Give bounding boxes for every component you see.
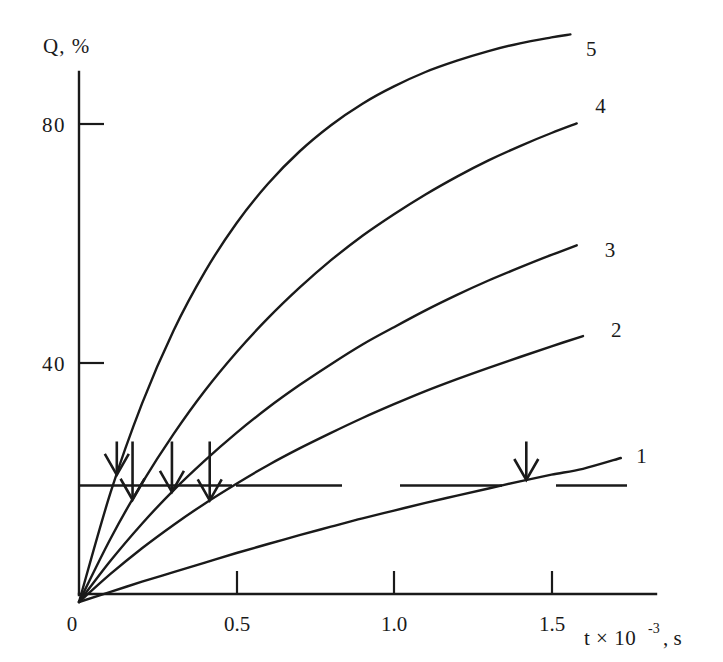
curves-group (79, 34, 621, 602)
x-origin-label: 0 (67, 612, 78, 636)
x-axis-label: t × 10 -3 , s (584, 621, 682, 650)
chart-figure: 80 40 0 0.5 1.0 1.5 Q, % t × 10 -3 , s (0, 0, 723, 662)
arrow-to-curve-2 (198, 441, 222, 500)
x-tick-label-0point5: 0.5 (224, 612, 250, 636)
curve-label-3: 3 (605, 238, 616, 262)
y-tick-label-80: 80 (42, 113, 66, 137)
x-axis-label-tail: , s (663, 626, 682, 650)
y-axis-label: Q, % (43, 34, 90, 58)
arrow-to-curve-1 (514, 441, 538, 480)
chart-plot-area: 80 40 0 0.5 1.0 1.5 Q, % t × 10 -3 , s (0, 0, 723, 662)
curve-label-5: 5 (586, 37, 597, 61)
y-tick-label-40: 40 (42, 352, 66, 376)
curve-label-1: 1 (636, 444, 647, 468)
y-axis-ticks (79, 124, 104, 363)
x-tick-label-1point0: 1.0 (381, 612, 407, 636)
x-axis-ticks (237, 571, 552, 594)
curve-label-4: 4 (595, 94, 606, 118)
x-axis-label-exponent: -3 (648, 621, 660, 636)
curve-2 (79, 336, 583, 602)
x-axis-label-main: t × 10 (584, 626, 636, 650)
curve-5 (79, 34, 570, 602)
curve-label-2: 2 (611, 318, 622, 342)
x-tick-label-1point5: 1.5 (539, 612, 565, 636)
curve-3 (79, 245, 577, 602)
curve-1 (79, 458, 621, 602)
